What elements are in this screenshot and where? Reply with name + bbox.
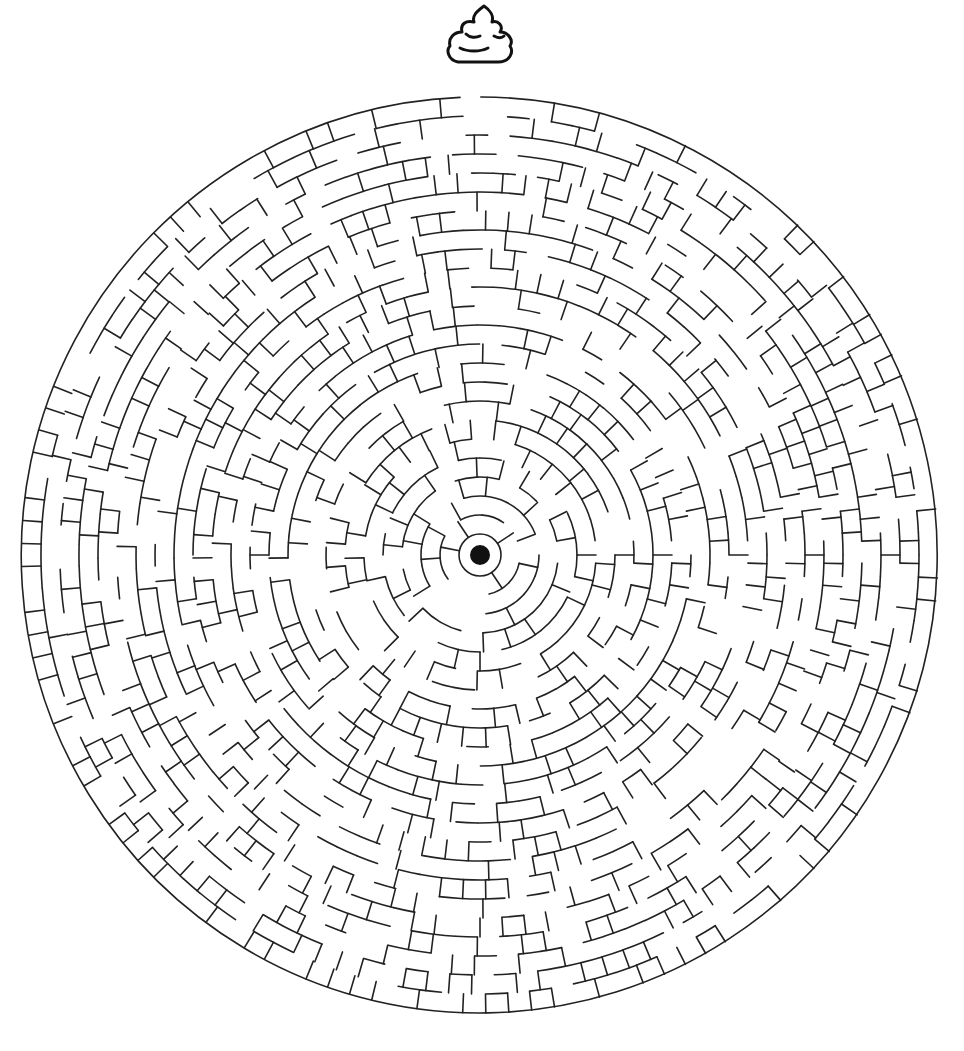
center-dot-start[interactable]: [470, 545, 490, 565]
circular-maze[interactable]: [0, 0, 964, 1051]
